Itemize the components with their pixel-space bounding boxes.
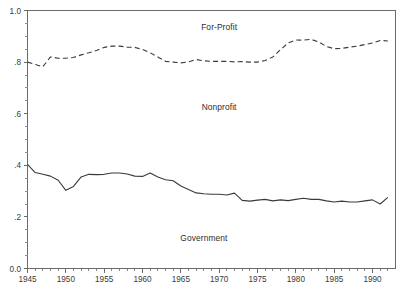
x-tick-label: 1960 bbox=[133, 275, 152, 284]
chart-figure: 1.0.8.6.4.20.0 1945195019551960196519701… bbox=[0, 0, 405, 297]
series-label-for-profit: For-Profit bbox=[201, 22, 237, 32]
series-line-government bbox=[28, 164, 388, 204]
series-label-nonprofit: Nonprofit bbox=[202, 102, 237, 112]
y-tick-label: 0.0 bbox=[10, 265, 22, 274]
series-line-for-profit bbox=[28, 39, 388, 66]
chart-axes bbox=[28, 11, 396, 269]
x-axis-tick-labels: 1945195019551960196519701975198019851990 bbox=[18, 275, 382, 284]
x-tick-label: 1965 bbox=[172, 275, 191, 284]
x-tick-label: 1955 bbox=[95, 275, 114, 284]
y-tick-label: 1.0 bbox=[10, 7, 22, 16]
y-tick-label: .8 bbox=[14, 58, 21, 67]
x-tick-label: 1975 bbox=[248, 275, 267, 284]
x-tick-label: 1950 bbox=[57, 275, 76, 284]
x-tick-label: 1990 bbox=[363, 275, 382, 284]
y-tick-label: .2 bbox=[14, 213, 21, 222]
y-axis-tick-labels: 1.0.8.6.4.20.0 bbox=[10, 7, 22, 274]
x-tick-label: 1945 bbox=[18, 275, 37, 284]
x-tick-label: 1970 bbox=[210, 275, 229, 284]
y-tick-label: .4 bbox=[14, 161, 21, 170]
series-label-government: Government bbox=[180, 233, 227, 243]
x-tick-label: 1980 bbox=[287, 275, 306, 284]
chart-series-group bbox=[28, 39, 388, 204]
y-tick-label: .6 bbox=[14, 110, 21, 119]
line-chart: 1.0.8.6.4.20.0 1945195019551960196519701… bbox=[0, 0, 405, 297]
x-tick-label: 1985 bbox=[325, 275, 344, 284]
